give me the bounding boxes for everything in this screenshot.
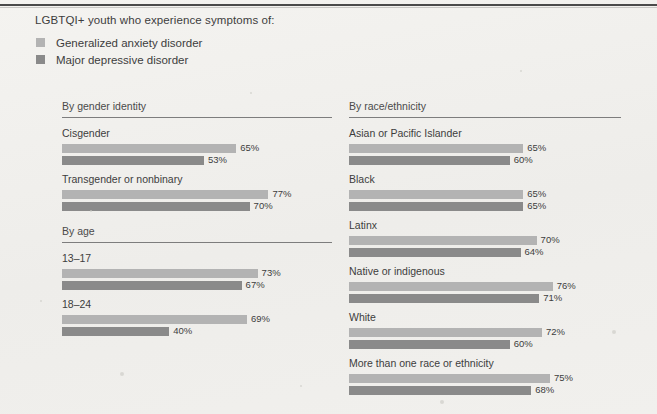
section-heading: By gender identity (62, 100, 332, 112)
bar-value-label: 70% (541, 235, 560, 245)
bar (349, 236, 537, 245)
legend-item-label: Generalized anxiety disorder (56, 37, 202, 49)
bar (349, 144, 523, 153)
bar-value-label: 75% (554, 373, 573, 383)
chart-section: By race/ethnicityAsian or Pacific Island… (349, 100, 621, 396)
chart-section: By age13–1773%67%18–2469%40% (62, 225, 332, 337)
bar-row: 68% (349, 384, 621, 396)
scan-artifact (120, 372, 124, 376)
bar-group: Black65%65% (349, 173, 621, 212)
bar-group: Native or indigenous76%71% (349, 265, 621, 304)
bar-row: 76% (349, 280, 621, 292)
bar-row: 70% (349, 234, 621, 246)
bar-value-label: 64% (525, 247, 544, 257)
bar (62, 156, 204, 165)
chart-legend: Generalized anxiety disorderMajor depres… (36, 34, 202, 68)
section-heading: By age (62, 225, 332, 237)
bar-row: 69% (62, 313, 332, 325)
bar (349, 328, 542, 337)
bar (349, 202, 523, 211)
bar (349, 282, 553, 291)
bar (62, 327, 169, 336)
bar-value-label: 53% (208, 155, 227, 165)
scan-artifact (440, 400, 444, 404)
bar-row: 71% (349, 292, 621, 304)
bar-value-label: 60% (514, 339, 533, 349)
legend-swatch-icon (36, 55, 45, 64)
bar (62, 281, 242, 290)
bar-row: 67% (62, 279, 332, 291)
bar-value-label: 60% (514, 155, 533, 165)
bar-row: 77% (62, 188, 332, 200)
section-divider (62, 242, 332, 243)
bar-group: 13–1773%67% (62, 252, 332, 291)
bar (349, 386, 531, 395)
legend-item-label: Major depressive disorder (56, 54, 188, 66)
bar-group: Asian or Pacific Islander65%60% (349, 127, 621, 166)
scan-artifact (300, 385, 302, 387)
bar-row: 65% (62, 142, 332, 154)
chart-section: By gender identityCisgender65%53%Transge… (62, 100, 332, 212)
column-right: By race/ethnicityAsian or Pacific Island… (349, 100, 621, 396)
bar-row: 75% (349, 372, 621, 384)
bar (349, 248, 521, 257)
scan-artifact (40, 300, 42, 302)
bar-group-label: Cisgender (62, 127, 332, 139)
bar-value-label: 70% (254, 201, 273, 211)
bar-value-label: 76% (557, 281, 576, 291)
bar-group: White72%60% (349, 311, 621, 350)
bar-value-label: 72% (546, 327, 565, 337)
bar-value-label: 68% (535, 385, 554, 395)
bar-row: 73% (62, 267, 332, 279)
bar-group: Latinx70%64% (349, 219, 621, 258)
bar (62, 315, 247, 324)
bar-row: 70% (62, 200, 332, 212)
bar-value-label: 69% (251, 314, 270, 324)
bar-row: 60% (349, 154, 621, 166)
bar-row: 40% (62, 325, 332, 337)
scan-artifact (612, 330, 616, 334)
bar (349, 190, 523, 199)
bar (62, 190, 268, 199)
bar-value-label: 73% (262, 268, 281, 278)
bar-value-label: 65% (240, 143, 259, 153)
bar-group-label: More than one race or ethnicity (349, 357, 621, 369)
legend-item-depression: Major depressive disorder (36, 51, 202, 68)
bar-group-label: Black (349, 173, 621, 185)
bar-row: 72% (349, 326, 621, 338)
bar (349, 340, 510, 349)
bar-value-label: 65% (527, 143, 546, 153)
bar-group: More than one race or ethnicity75%68% (349, 357, 621, 396)
bar-row: 64% (349, 246, 621, 258)
bar-group: 18–2469%40% (62, 298, 332, 337)
bar-group: Cisgender65%53% (62, 127, 332, 166)
section-divider (62, 117, 332, 118)
bar-row: 65% (349, 188, 621, 200)
bar-group-label: Latinx (349, 219, 621, 231)
column-left: By gender identityCisgender65%53%Transge… (62, 100, 332, 337)
bar (349, 294, 539, 303)
bar-group-label: Native or indigenous (349, 265, 621, 277)
bar-value-label: 77% (272, 189, 291, 199)
bar-group-label: 13–17 (62, 252, 332, 264)
bar (62, 144, 236, 153)
bar-group-label: 18–24 (62, 298, 332, 310)
bar-group-label: White (349, 311, 621, 323)
chart-page: LGBTQI+ youth who experience symptoms of… (0, 0, 657, 414)
scan-artifact (520, 70, 522, 72)
bar-group-label: Transgender or nonbinary (62, 173, 332, 185)
bar-row: 65% (349, 200, 621, 212)
bar (62, 269, 258, 278)
bar-group: Transgender or nonbinary77%70% (62, 173, 332, 212)
bar-value-label: 40% (173, 326, 192, 336)
legend-swatch-icon (36, 38, 45, 47)
section-divider (349, 117, 621, 118)
bar-value-label: 65% (527, 201, 546, 211)
bar (349, 156, 510, 165)
scan-artifact (250, 92, 252, 94)
bar-value-label: 71% (543, 293, 562, 303)
bar-group-label: Asian or Pacific Islander (349, 127, 621, 139)
bar-value-label: 67% (246, 280, 265, 290)
scan-artifact (90, 210, 92, 212)
legend-item-anxiety: Generalized anxiety disorder (36, 34, 202, 51)
